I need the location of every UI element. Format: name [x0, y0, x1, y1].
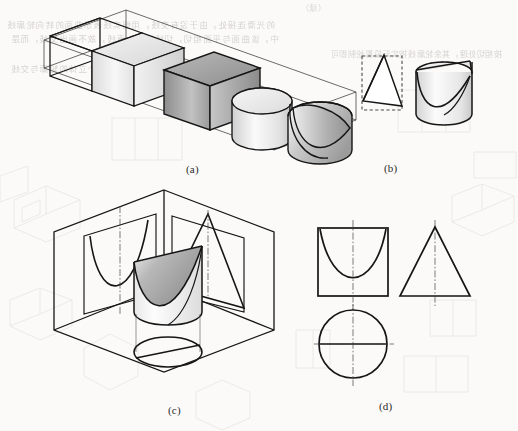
projection-ellipse-plane: [134, 337, 202, 367]
panel-a: [38, 4, 368, 169]
view-side-triangle: [400, 220, 470, 306]
cut-cylinder-solid: [134, 246, 202, 325]
solid-cut-cylinder: [416, 61, 472, 125]
view-top-circle-chord: [314, 304, 394, 386]
solid-cylinder-curved-cut: [288, 102, 352, 164]
solid-cylinder: [232, 88, 292, 150]
caption-a: (a): [186, 163, 199, 175]
panel-b: [358, 48, 488, 153]
caption-b: (b): [384, 162, 397, 174]
view-front-square-parabola: [318, 220, 388, 310]
caption-c: (c): [168, 404, 181, 416]
panel-c: [36, 186, 286, 401]
panel-d: [312, 218, 502, 393]
solid-wedge-triangle: [362, 55, 402, 110]
scanned-page: （续） 的光滑连接处，由于没有交线，用细实线表示曲面的转向轮廓线 中，该曲面与平…: [0, 0, 518, 431]
caption-d: (d): [379, 400, 392, 412]
